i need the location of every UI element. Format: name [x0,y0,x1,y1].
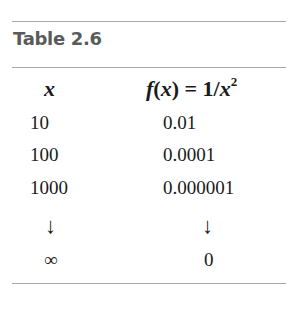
down-arrow-icon: ↓ [202,213,213,239]
row-5-fx: 0 [204,249,214,271]
infinity-symbol: ∞ [44,249,58,271]
row-2-fx: 0.0001 [163,144,215,166]
fx-exponent: 2 [231,74,238,89]
row-2-x: 100 [30,144,59,166]
fx-var: x [161,76,172,101]
table-title: Table 2.6 [13,28,102,49]
fx-paren-open: ( [153,76,160,101]
down-arrow-icon: ↓ [45,213,56,239]
fx-equals: = [179,76,203,101]
fx-one: 1/ [203,76,220,101]
column-header-x: x [44,76,55,102]
fx-paren-close: ) [172,76,179,101]
fx-denom: x [220,76,231,101]
top-rule [12,21,286,22]
column-header-fx: f(x) = 1/x2 [146,76,237,102]
row-1-fx: 0.01 [163,112,196,134]
header-rule [12,67,286,68]
row-3-fx: 0.000001 [163,177,234,199]
row-1-x: 10 [30,112,49,134]
bottom-rule [12,283,286,284]
row-3-x: 1000 [30,177,68,199]
